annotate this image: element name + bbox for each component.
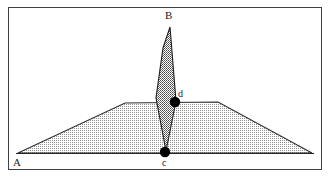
point-c-marker <box>160 147 170 157</box>
label-A: A <box>13 157 21 168</box>
geometry-diagram <box>0 0 330 177</box>
label-d: d <box>178 89 183 99</box>
label-c: c <box>162 158 166 168</box>
label-B: B <box>165 10 172 21</box>
figure-container: B A d c <box>0 0 330 177</box>
